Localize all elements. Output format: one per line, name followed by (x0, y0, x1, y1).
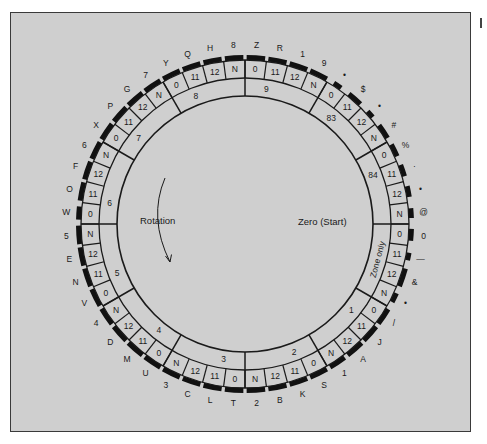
outer-character: V (82, 298, 88, 308)
outer-character: @ (419, 207, 428, 217)
cell-code: 0 (397, 229, 402, 239)
cell-code: 0 (382, 150, 387, 160)
cell-code: N (113, 305, 119, 315)
outer-character: / (393, 318, 396, 328)
outer-character: A (360, 354, 366, 364)
cell-divider (264, 61, 266, 79)
cell-code: N (328, 348, 334, 358)
cell-code: 12 (210, 67, 220, 77)
cell-dividers (81, 60, 409, 388)
cell-code: 12 (271, 371, 281, 381)
outer-character: 9 (322, 58, 327, 68)
cell-divider (380, 161, 397, 168)
outer-character: 8 (231, 40, 236, 50)
cell-divider (301, 359, 308, 376)
zone-label: 6 (107, 198, 112, 208)
cell-code: 12 (138, 102, 148, 112)
cell-code: N (381, 288, 387, 298)
cell-divider (182, 359, 189, 376)
code-bar (376, 308, 390, 325)
outer-character: 2 (254, 398, 259, 408)
outer-character: 1 (300, 49, 305, 59)
outer-character: F (73, 161, 78, 171)
zero-start-label: Zero (Start) (298, 216, 347, 227)
outer-character: T (231, 398, 236, 408)
cell-divider (93, 161, 110, 168)
cell-divider (224, 61, 226, 79)
cell-code: N (252, 374, 258, 384)
cell-code: 12 (124, 321, 134, 331)
outer-character: • (404, 298, 407, 308)
outer-character: H (207, 43, 213, 53)
cell-code: 12 (342, 336, 352, 346)
cell-code: N (87, 229, 93, 239)
outer-character: % (402, 140, 410, 150)
outer-character: Q (184, 49, 191, 59)
cell-divider (301, 72, 308, 89)
cell-code: 12 (392, 189, 402, 199)
cell-divider (82, 243, 100, 245)
cell-code: 0 (253, 64, 258, 74)
cell-code: 11 (191, 72, 200, 82)
cell-divider (318, 350, 327, 366)
cell-code: 11 (393, 249, 402, 259)
cell-code: 11 (94, 269, 103, 279)
cell-code: 0 (311, 358, 316, 368)
cell-divider (283, 365, 288, 382)
cell-divider (386, 262, 403, 267)
outer-character: M (123, 354, 130, 364)
cell-divider (182, 72, 189, 89)
cell-code: 0 (372, 305, 377, 315)
cell-code: 11 (124, 117, 133, 127)
zone-label: 83 (326, 113, 336, 123)
cell-divider (87, 182, 104, 187)
cell-code: 0 (114, 133, 119, 143)
outer-character: 0 (421, 231, 426, 241)
cell-code: 11 (387, 169, 396, 179)
zone-label: 2 (292, 347, 297, 357)
cell-code: 12 (357, 117, 367, 127)
outer-character: R (277, 43, 283, 53)
cell-divider (264, 369, 266, 387)
cell-codes: 01112N01112N01112N01112N01112N01112N0111… (87, 64, 402, 383)
cell-divider (390, 243, 408, 245)
zone-label: 5 (115, 268, 120, 278)
cell-code: 12 (88, 249, 98, 259)
outer-character: • (343, 70, 346, 80)
outer-character: J (377, 337, 381, 347)
cell-code: 0 (329, 90, 334, 100)
outer-character: • (378, 101, 381, 111)
code-bar (99, 307, 113, 325)
outer-character: 3 (163, 380, 168, 390)
outer-character: 6 (82, 140, 87, 150)
outer-character: K (300, 389, 306, 399)
outer-character: O (66, 184, 73, 194)
outer-character: D (107, 337, 113, 347)
cell-divider (82, 203, 100, 205)
cell-code: 11 (89, 189, 98, 199)
cell-divider (203, 365, 208, 382)
zone-label: 9 (264, 84, 269, 94)
cell-divider (163, 82, 172, 98)
code-bars (76, 55, 414, 393)
cell-code: N (371, 133, 377, 143)
zone-label: 8 (194, 91, 199, 101)
outer-character: W (62, 207, 70, 217)
outer-character: 7 (143, 70, 148, 80)
zone-label: 84 (368, 170, 378, 180)
outer-character: • (419, 184, 422, 194)
cell-code: 12 (190, 366, 200, 376)
cell-code: 11 (357, 321, 366, 331)
outer-character: N (72, 277, 78, 287)
zone-label: 1 (349, 305, 354, 315)
cell-code: 12 (387, 269, 397, 279)
outer-character: · (413, 161, 416, 171)
outer-character: $ (361, 84, 366, 94)
outer-character: E (67, 254, 73, 264)
outer-character: P (108, 101, 114, 111)
outer-character: U (142, 368, 148, 378)
outer-character: L (208, 395, 213, 405)
cell-code: N (173, 358, 179, 368)
cell-code: 0 (174, 80, 179, 90)
cell-code: N (232, 64, 238, 74)
